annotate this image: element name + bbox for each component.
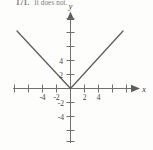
figure-root: 171. It does not. [0, 0, 153, 150]
x-tick-label--4: -4 [39, 93, 45, 102]
plot-svg: -4 -2 2 4 4 2 -2 -4 x y [0, 0, 153, 150]
y-tick-label-4: 4 [59, 57, 63, 66]
y-tick-label-2: 2 [59, 71, 63, 80]
y-tick-label--4: -4 [58, 113, 64, 122]
coordinate-plot: -4 -2 2 4 4 2 -2 -4 x y [0, 0, 153, 150]
x-tick-label-4: 4 [97, 93, 101, 102]
x-axis-arrowhead [131, 85, 140, 92]
x-tick-label-2: 2 [83, 93, 87, 102]
y-tick-label--2: -2 [58, 99, 64, 108]
x-axis-label: x [141, 85, 146, 94]
y-axis-label: y [68, 2, 73, 11]
